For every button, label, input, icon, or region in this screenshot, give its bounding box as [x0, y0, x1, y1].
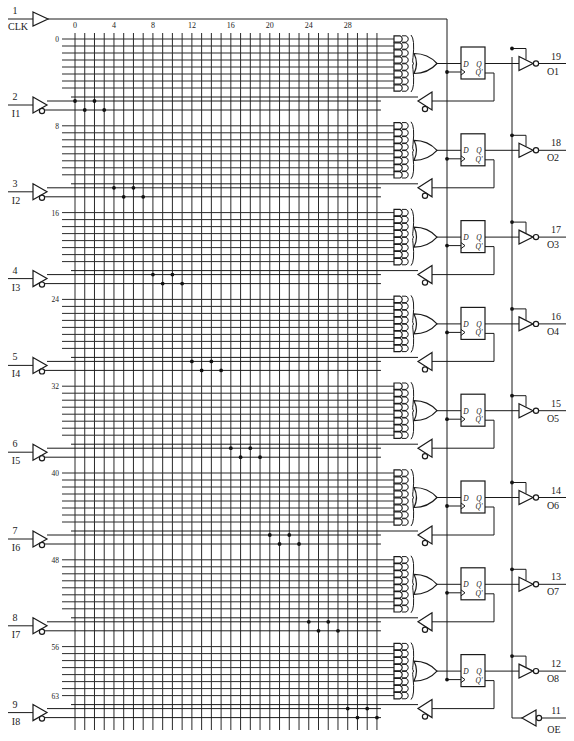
input-pin-name: I5	[12, 455, 20, 466]
and-gate-icon	[394, 216, 402, 222]
fuse-dot	[180, 282, 184, 286]
or-gate-icon	[414, 140, 437, 160]
fuse-dot	[248, 446, 252, 450]
and-gate-icon	[394, 296, 402, 302]
and-gate-icon	[394, 78, 402, 84]
and-gate-icon	[394, 692, 402, 698]
output-pin-name: O4	[547, 326, 559, 337]
row-label: 0	[55, 35, 59, 44]
and-gate-icon	[394, 599, 402, 605]
clock-junction-dot	[445, 678, 449, 682]
column-label: 28	[344, 21, 352, 30]
or-gate-icon	[414, 488, 437, 508]
and-gate-icon	[394, 671, 402, 677]
inversion-bubble-icon	[422, 627, 427, 632]
row-label: 48	[52, 556, 60, 565]
input-i2: 3I2	[8, 178, 381, 206]
inversion-bubble-icon	[422, 714, 427, 719]
fuse-dot	[356, 716, 360, 720]
clock-junction-dot	[445, 70, 449, 74]
input-pin-number: 3	[13, 178, 18, 189]
flipflop-qn-label: Q'	[475, 68, 482, 77]
and-gate-icon	[394, 310, 402, 316]
and-gate-icon	[394, 432, 402, 438]
clock-junction-dot	[445, 331, 449, 335]
inversion-bubble-icon	[39, 456, 44, 461]
and-gate-icon	[394, 564, 402, 570]
flipflop-d-label: D	[462, 580, 469, 589]
clock-buffer-icon	[33, 12, 48, 26]
fuse-dot	[375, 716, 379, 720]
and-gate-icon	[394, 425, 402, 431]
input-pin-name: I1	[12, 108, 20, 119]
pal-logic-diagram: 1CLK04812162024280DQQ'19O12I18DQQ'18O23I…	[0, 0, 574, 741]
inversion-bubble-icon	[533, 495, 538, 500]
fuse-dot	[73, 99, 77, 103]
and-gate-icon	[394, 43, 402, 49]
fuse-dot	[258, 455, 262, 459]
input-pin-number: 5	[13, 351, 18, 362]
and-gate-icon	[394, 505, 402, 511]
inversion-bubble-icon	[533, 61, 538, 66]
and-gate-icon	[394, 491, 402, 497]
and-gate-icon	[394, 664, 402, 670]
and-gate-stack	[394, 209, 414, 266]
inversion-bubble-icon	[422, 280, 427, 285]
and-gate-stack	[394, 122, 414, 179]
column-label: 4	[112, 21, 116, 30]
and-gate-icon	[394, 165, 402, 171]
input-pin-name: I7	[12, 629, 20, 640]
or-gate-icon	[414, 227, 437, 247]
inversion-bubble-icon	[533, 321, 538, 326]
inversion-bubble-icon	[533, 408, 538, 413]
input-i5: 6I5	[8, 438, 381, 466]
fuse-dot	[122, 195, 126, 199]
and-gate-icon	[394, 397, 402, 403]
output-pin-number: 19	[551, 51, 561, 62]
and-gate-stack	[394, 295, 414, 352]
output-pin-number: 14	[551, 485, 561, 496]
fuse-dot	[297, 542, 301, 546]
row-label: 24	[52, 295, 60, 304]
fuse-dot	[287, 533, 291, 537]
and-gate-icon	[394, 585, 402, 591]
clock-junction-dot	[445, 157, 449, 161]
fuse-dot	[190, 360, 194, 364]
inversion-bubble-icon	[422, 367, 427, 372]
flipflop-d-label: D	[462, 407, 469, 416]
flipflop-qn-label: Q'	[475, 242, 482, 251]
fuse-dot	[200, 369, 204, 373]
output-pin-number: 17	[551, 224, 561, 235]
output-pin-name: O7	[547, 586, 559, 597]
input-pin-number: 7	[13, 525, 18, 536]
clock-pin-number: 1	[13, 5, 18, 16]
and-gate-icon	[394, 50, 402, 56]
and-gate-icon	[394, 303, 402, 309]
fuse-dot	[346, 707, 350, 711]
flipflop-qn-label: Q'	[475, 676, 482, 685]
flipflop-qn-label: Q'	[475, 589, 482, 598]
inversion-bubble-icon	[39, 716, 44, 721]
and-gate-icon	[394, 36, 402, 42]
input-pin-name: I8	[12, 716, 20, 727]
fuse-dot	[209, 360, 213, 364]
and-gate-icon	[394, 685, 402, 691]
row-label: 56	[52, 643, 60, 652]
row-label: 40	[52, 469, 60, 478]
output-pin-number: 15	[551, 398, 561, 409]
and-gate-icon	[394, 477, 402, 483]
or-gate-icon	[414, 54, 437, 74]
macrocell-block-2: 8DQQ'18O23I2	[8, 122, 566, 206]
and-gate-icon	[394, 557, 402, 563]
macrocell-block-3: 16DQQ'17O34I3	[8, 209, 566, 293]
and-gate-icon	[394, 324, 402, 330]
schematic-canvas: 1CLK04812162024280DQQ'19O12I18DQQ'18O23I…	[0, 0, 574, 741]
and-gate-icon	[394, 85, 402, 91]
fuse-dot	[141, 195, 145, 199]
flipflop-qn-label: Q'	[475, 502, 482, 511]
fuse-dot	[93, 99, 97, 103]
flipflop-d-label: D	[462, 60, 469, 69]
and-gate-icon	[394, 498, 402, 504]
oe-buffer-icon	[522, 710, 536, 726]
and-gate-icon	[394, 237, 402, 243]
